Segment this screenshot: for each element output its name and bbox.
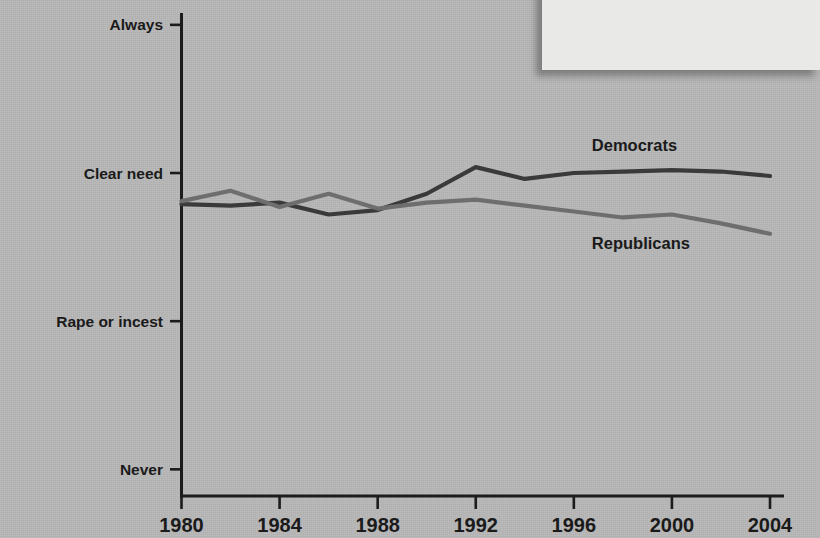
chart-page: AlwaysClear needRape or incestNever 1980… — [0, 0, 820, 538]
series-label-republicans: Republicans — [592, 234, 690, 252]
x-tick-label-1988: 1988 — [355, 514, 400, 536]
line-chart: AlwaysClear needRape or incestNever 1980… — [0, 0, 820, 538]
series-paths — [182, 167, 771, 234]
y-tick-label-clear-need: Clear need — [84, 165, 163, 182]
series-legend-labels: DemocratsRepublicans — [592, 136, 690, 252]
x-tick-label-1996: 1996 — [552, 514, 597, 536]
x-tick-label-1984: 1984 — [257, 514, 302, 536]
callout-note-line-2: choice. — [564, 0, 806, 2]
x-axis-labels: 1980198419881992199620002004 — [159, 514, 793, 536]
axis-lines — [180, 13, 784, 498]
y-tick-label-rape-or-incest: Rape or incest — [56, 313, 163, 330]
y-tick-label-never: Never — [120, 461, 163, 478]
series-line-democrats — [182, 167, 771, 214]
series-label-democrats: Democrats — [592, 136, 677, 154]
x-tick-label-2004: 2004 — [748, 514, 793, 536]
y-tick-label-always: Always — [110, 16, 163, 33]
x-tick-label-1992: 1992 — [454, 514, 499, 536]
series-line-republicans — [182, 191, 771, 234]
y-axis-labels: AlwaysClear needRape or incestNever — [56, 16, 163, 477]
x-axis-ticks — [182, 496, 771, 509]
callout-note-box: obtain an abortion as choice. — [542, 0, 820, 70]
x-tick-label-2000: 2000 — [650, 514, 695, 536]
x-tick-label-1980: 1980 — [159, 514, 204, 536]
